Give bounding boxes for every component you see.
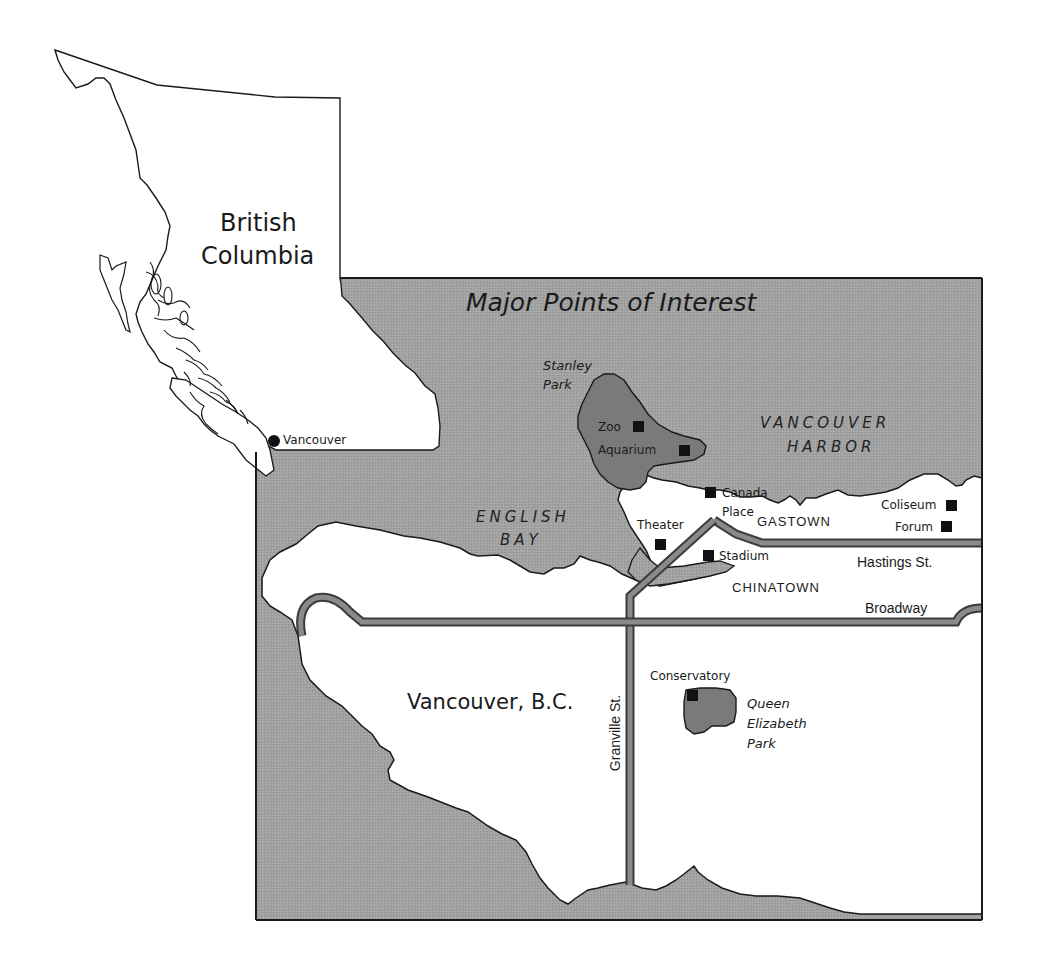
- street-label-hastings: Hastings St.: [857, 555, 932, 569]
- poi-marker-coliseum[interactable]: [946, 500, 957, 511]
- english-bay-label-1: ENGLISH: [476, 510, 570, 525]
- street-label-broadway: Broadway: [865, 601, 927, 615]
- haida-gwaii: [100, 255, 130, 332]
- inset-title: Major Points of Interest: [466, 290, 756, 315]
- poi-marker-forum[interactable]: [941, 521, 952, 532]
- poi-marker-canada-place[interactable]: [705, 487, 716, 498]
- poi-label-aquarium[interactable]: Aquarium: [598, 444, 656, 456]
- vancouver-city-dot: [268, 435, 280, 447]
- qe-park-label-2: Elizabeth: [747, 717, 807, 730]
- neighborhood-gastown: GASTOWN: [757, 515, 831, 528]
- english-bay-label-2: BAY: [500, 533, 542, 548]
- vancouver-harbor-label-1: VANCOUVER: [760, 416, 890, 431]
- poi-marker-aquarium[interactable]: [679, 445, 690, 456]
- poi-marker-stadium[interactable]: [703, 550, 714, 561]
- region-label-british: British: [220, 211, 297, 235]
- street-label-granville: Granville St.: [608, 688, 622, 778]
- poi-label-stadium[interactable]: Stadium: [719, 550, 769, 562]
- inset-city-label: Vancouver, B.C.: [407, 692, 573, 713]
- region-label-columbia: Columbia: [201, 244, 314, 268]
- poi-label-zoo[interactable]: Zoo: [598, 421, 621, 433]
- vancouver-harbor-label-2: HARBOR: [787, 440, 875, 455]
- poi-marker-conservatory[interactable]: [687, 690, 698, 701]
- poi-marker-theater[interactable]: [655, 539, 666, 550]
- poi-label-place[interactable]: Place: [722, 506, 754, 518]
- vancouver-city-label: Vancouver: [283, 434, 346, 446]
- stanley-park-label-1: Stanley: [543, 359, 592, 372]
- qe-park-label-1: Queen: [747, 697, 790, 710]
- poi-label-canada[interactable]: Canada: [722, 487, 768, 499]
- poi-label-forum[interactable]: Forum: [895, 521, 933, 533]
- poi-label-theater[interactable]: Theater: [637, 519, 684, 531]
- poi-label-coliseum[interactable]: Coliseum: [881, 499, 936, 511]
- qe-park-label-3: Park: [747, 737, 776, 750]
- poi-marker-zoo[interactable]: [633, 421, 644, 432]
- map-canvas: [0, 0, 1037, 977]
- stanley-park-label-2: Park: [543, 378, 572, 391]
- poi-label-conservatory[interactable]: Conservatory: [650, 670, 730, 682]
- neighborhood-chinatown: CHINATOWN: [732, 581, 820, 594]
